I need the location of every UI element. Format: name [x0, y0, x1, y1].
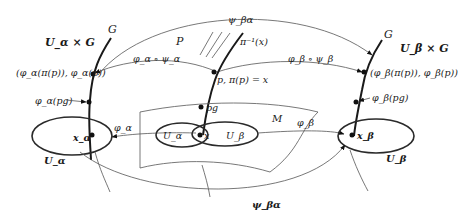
psi-top-arc — [98, 19, 372, 75]
x-beta-label: x_β — [356, 130, 374, 141]
x-label: x — [204, 130, 210, 141]
phi-beta-label: φ_β — [297, 117, 314, 129]
p-label: p, π(p) = x — [217, 74, 269, 85]
right-G: G — [384, 28, 393, 41]
U-alpha-chart — [32, 117, 112, 155]
psi-top-label: ψ_βα — [228, 14, 254, 26]
U-alpha-times-G: U_α × G — [45, 36, 95, 50]
psi-bottom-arc — [80, 145, 345, 189]
left-G: G — [108, 23, 117, 36]
psi-bottom-label: ψ_βα — [252, 199, 281, 210]
U-alpha-M-label: U_α — [163, 130, 183, 142]
phi-alpha-pg-label: φ_α(pg) — [35, 95, 73, 107]
left-fiber-curve — [89, 38, 111, 160]
comp-alpha-label: φ_α ∘ ψ_α — [133, 53, 181, 65]
U-beta-M-label: U_β — [226, 130, 245, 142]
U-beta-chart — [338, 119, 414, 153]
fiber-label: π⁻¹(x) — [239, 36, 268, 47]
left-point-label: (φ_α(π(p)), φ_α(p)) — [16, 67, 106, 79]
P-label: P — [175, 35, 184, 48]
right-point-label: (φ_β(π(p)), φ_β(p)) — [370, 67, 458, 79]
phi-beta-pg-label: φ_β(pg) — [372, 92, 409, 104]
fiber-bundle-diagram: ψ_βα φ_α ∘ ψ_α φ_β ∘ ψ_β G U_α × G (φ_α(… — [0, 0, 458, 218]
U-beta-times-G: U_β × G — [400, 42, 449, 56]
phi-alpha-label: φ_α — [114, 122, 132, 134]
x-alpha-label: x_α — [72, 132, 91, 143]
U-beta-chart-label: U_β — [386, 153, 407, 164]
U-alpha-chart-label: U_α — [44, 155, 66, 166]
comp-beta-label: φ_β ∘ ψ_β — [288, 53, 334, 65]
M-label: M — [271, 113, 283, 124]
